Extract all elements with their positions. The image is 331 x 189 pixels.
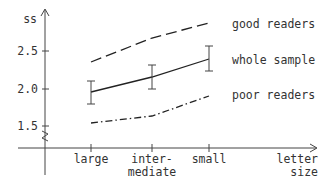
series-good-readers [91, 23, 209, 62]
legend-good-readers: good readers [232, 17, 315, 31]
chart-canvas: 2.5 2.0 1.5 ss large inter- mediate smal… [0, 0, 331, 189]
legend-whole-sample: whole sample [232, 53, 315, 67]
y-axis-label: ss [23, 12, 37, 26]
x-tick-label: large [74, 152, 109, 166]
series-poor-readers [91, 96, 209, 123]
x-axis-label: size [290, 165, 318, 179]
line-chart: 2.5 2.0 1.5 ss large inter- mediate smal… [0, 0, 331, 189]
x-axis-label: letter [276, 152, 318, 166]
y-tick-label: 1.5 [17, 119, 38, 133]
series-whole-sample [91, 59, 209, 92]
x-tick-label: inter- [131, 152, 173, 166]
y-tick-label: 2.5 [17, 44, 38, 58]
x-tick-label: mediate [128, 165, 177, 179]
y-tick-label: 2.0 [17, 82, 38, 96]
x-tick-label: small [192, 152, 227, 166]
legend-poor-readers: poor readers [232, 88, 315, 102]
axis-break-icon [42, 131, 48, 141]
error-bars [87, 46, 213, 104]
